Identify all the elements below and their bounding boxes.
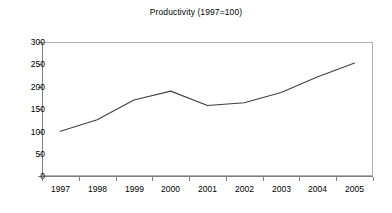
x-tick-mark-2: [116, 177, 117, 181]
x-tick-label-2002: 2002: [226, 185, 263, 194]
y-tick-label-50: 50: [5, 150, 45, 159]
x-tick-label-1999: 1999: [116, 185, 153, 194]
x-tick-label-1998: 1998: [79, 185, 116, 194]
x-axis-line: [42, 176, 373, 177]
x-tick-label-2001: 2001: [189, 185, 226, 194]
x-tick-mark-6: [263, 177, 264, 181]
x-tick-mark-9: [373, 177, 374, 181]
x-tick-mark-1: [79, 177, 80, 181]
y-tick-label-150: 150: [5, 105, 45, 114]
x-tick-mark-4: [189, 177, 190, 181]
y-tick-label-300: 300: [5, 38, 45, 47]
x-tick-label-2003: 2003: [263, 185, 300, 194]
y-tick-label-100: 100: [5, 128, 45, 137]
x-tick-label-2004: 2004: [299, 185, 336, 194]
x-tick-mark-3: [152, 177, 153, 181]
y-tick-label-0: 0: [5, 172, 45, 181]
x-tick-label-2005: 2005: [336, 185, 373, 194]
x-tick-mark-7: [299, 177, 300, 181]
x-tick-mark-8: [336, 177, 337, 181]
x-tick-label-2000: 2000: [152, 185, 189, 194]
productivity-line-chart: Productivity (1997=100) 300 250 200 150 …: [0, 0, 392, 213]
chart-title: Productivity (1997=100): [0, 7, 392, 17]
plot-area-frame: [42, 42, 373, 176]
y-tick-label-250: 250: [5, 60, 45, 69]
x-tick-label-1997: 1997: [42, 185, 79, 194]
x-tick-mark-5: [226, 177, 227, 181]
x-tick-mark-0: [42, 177, 43, 181]
y-tick-label-200: 200: [5, 83, 45, 92]
